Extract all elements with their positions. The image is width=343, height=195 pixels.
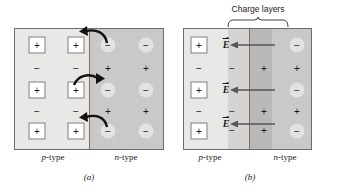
acceptor-ion: + — [191, 82, 208, 99]
efield-arrow-icon — [230, 40, 276, 50]
electron-carrier: + — [291, 63, 303, 75]
acceptor-ion: + — [191, 37, 208, 54]
efield-arrow-icon — [230, 119, 276, 129]
acceptor-ion: + — [29, 82, 46, 99]
hole-carrier: − — [193, 63, 205, 75]
acceptor-ion: + — [191, 123, 208, 140]
hole-carrier: − — [193, 106, 205, 118]
positive-layer-charge: + — [258, 106, 270, 118]
donor-ion: − — [139, 124, 154, 139]
panel-b-letter: (b) — [245, 172, 256, 182]
efield-vector-label: E — [223, 40, 230, 50]
efield-vector-label: E — [223, 85, 230, 95]
panel-a-letter: (a) — [84, 172, 95, 182]
hole-carrier: − — [31, 106, 43, 118]
charge-layers-brace — [227, 17, 289, 28]
electron-carrier: + — [140, 63, 152, 75]
negative-layer-charge: − — [226, 63, 238, 75]
donor-ion: − — [290, 124, 305, 139]
panel-a-n-type-label: n-type — [115, 152, 138, 162]
donor-ion: − — [139, 83, 154, 98]
efield-vector-label: E — [223, 119, 230, 129]
acceptor-ion: + — [29, 37, 46, 54]
donor-ion: − — [290, 83, 305, 98]
donor-ion: − — [139, 38, 154, 53]
diffusion-arrow-left-icon — [76, 112, 110, 132]
hole-carrier: − — [31, 63, 43, 75]
diffusion-arrow-right-icon — [72, 73, 108, 93]
panel-a-p-type-label: p-type — [42, 152, 65, 162]
donor-ion: − — [290, 38, 305, 53]
efield-arrow-icon — [230, 85, 276, 95]
panel-b-p-type-label: p-type — [199, 152, 222, 162]
diffusion-arrow-left-icon — [76, 26, 110, 46]
electron-carrier: + — [291, 106, 303, 118]
electron-carrier: + — [140, 106, 152, 118]
acceptor-ion: + — [29, 123, 46, 140]
panel-b-n-type-label: n-type — [274, 152, 297, 162]
charge-layers-label: Charge layers — [232, 4, 285, 14]
positive-layer-charge: + — [258, 63, 270, 75]
